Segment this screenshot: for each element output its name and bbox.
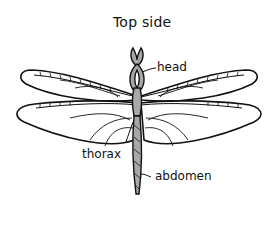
abdomen-label: abdomen — [155, 169, 212, 183]
upper-right-wing — [141, 70, 257, 101]
head-label: head — [157, 60, 187, 74]
head-leader-line — [142, 68, 156, 72]
thorax-label: thorax — [82, 147, 121, 161]
dragonfly-thorax — [133, 88, 142, 116]
lower-left-wing — [17, 101, 137, 144]
dragonfly-illustration — [0, 0, 274, 232]
upper-left-wing — [21, 70, 137, 101]
abdomen-leader-line — [141, 174, 151, 177]
lower-right-wing — [141, 101, 261, 144]
